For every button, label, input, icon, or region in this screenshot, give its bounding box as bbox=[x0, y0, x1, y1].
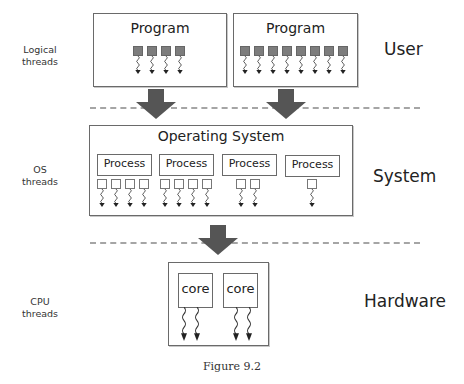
thread-square-icon bbox=[324, 46, 334, 56]
core-box: core bbox=[178, 273, 213, 308]
hardware-box: core core bbox=[168, 262, 269, 346]
system-layer-label: System bbox=[373, 166, 436, 186]
wavy-arrow-icon bbox=[111, 189, 121, 207]
wavy-arrow-icon bbox=[139, 189, 149, 207]
cpu-thread bbox=[179, 307, 189, 343]
logical-threads-label: Logical threads bbox=[5, 44, 75, 68]
logical-thread-row bbox=[133, 46, 189, 74]
wavy-arrow-icon bbox=[192, 307, 202, 341]
os-thread bbox=[202, 179, 212, 207]
wavy-arrow-icon bbox=[236, 189, 246, 207]
wavy-arrow-icon bbox=[174, 189, 184, 207]
os-thread-row bbox=[307, 179, 321, 207]
os-label-line1: OS bbox=[5, 164, 75, 176]
down-arrow-icon bbox=[136, 89, 176, 119]
wavy-arrow-icon bbox=[324, 56, 334, 74]
thread-square-icon bbox=[282, 46, 292, 56]
program-box-2: Program bbox=[233, 13, 358, 87]
logical-thread bbox=[296, 46, 306, 74]
wavy-arrow-icon bbox=[296, 56, 306, 74]
down-arrow-icon bbox=[198, 225, 238, 255]
os-thread bbox=[139, 179, 149, 207]
os-thread bbox=[97, 179, 107, 207]
process-box: Process bbox=[222, 154, 277, 176]
thread-square-icon bbox=[296, 46, 306, 56]
wavy-arrow-icon bbox=[160, 189, 170, 207]
process-box: Process bbox=[97, 154, 152, 176]
user-layer-label: User bbox=[384, 39, 423, 59]
thread-square-icon bbox=[268, 46, 278, 56]
wavy-arrow-icon bbox=[179, 307, 189, 341]
thread-square-icon bbox=[310, 46, 320, 56]
thread-square-icon bbox=[240, 46, 250, 56]
cpu-label-line2: threads bbox=[5, 308, 75, 320]
thread-square-icon bbox=[250, 179, 260, 189]
os-thread bbox=[160, 179, 170, 207]
cpu-thread bbox=[244, 307, 254, 343]
thread-square-icon bbox=[175, 46, 185, 56]
logical-thread bbox=[282, 46, 292, 74]
wavy-arrow-icon bbox=[254, 56, 264, 74]
thread-square-icon bbox=[202, 179, 212, 189]
wavy-arrow-icon bbox=[307, 189, 317, 207]
logical-thread bbox=[254, 46, 264, 74]
os-thread-row bbox=[97, 179, 153, 207]
down-arrow-icon bbox=[266, 89, 306, 119]
cpu-label-line1: CPU bbox=[5, 296, 75, 308]
thread-square-icon bbox=[188, 179, 198, 189]
wavy-arrow-icon bbox=[133, 56, 143, 74]
hardware-layer-label: Hardware bbox=[364, 291, 446, 311]
logical-thread bbox=[240, 46, 250, 74]
program-box-1: Program bbox=[93, 13, 227, 87]
os-threads-label: OS threads bbox=[5, 164, 75, 188]
logical-label-line1: Logical bbox=[5, 44, 75, 56]
os-thread bbox=[236, 179, 246, 207]
cpu-thread bbox=[231, 307, 241, 343]
os-thread bbox=[174, 179, 184, 207]
logical-label-line2: threads bbox=[5, 56, 75, 68]
wavy-arrow-icon bbox=[175, 56, 185, 74]
logical-thread bbox=[175, 46, 185, 74]
wavy-arrow-icon bbox=[97, 189, 107, 207]
process-box: Process bbox=[159, 154, 214, 176]
wavy-arrow-icon bbox=[161, 56, 171, 74]
wavy-arrow-icon bbox=[188, 189, 198, 207]
wavy-arrow-icon bbox=[338, 56, 348, 74]
thread-square-icon bbox=[97, 179, 107, 189]
operating-system-box: Operating System Process Process Process… bbox=[89, 125, 353, 216]
wavy-arrow-icon bbox=[147, 56, 157, 74]
logical-thread bbox=[147, 46, 157, 74]
thread-square-icon bbox=[147, 46, 157, 56]
process-box: Process bbox=[285, 155, 340, 177]
thread-square-icon bbox=[307, 179, 317, 189]
program-title: Program bbox=[94, 20, 226, 36]
wavy-arrow-icon bbox=[202, 189, 212, 207]
logical-thread bbox=[338, 46, 348, 74]
figure-caption: Figure 9.2 bbox=[0, 360, 464, 373]
thread-square-icon bbox=[111, 179, 121, 189]
wavy-arrow-icon bbox=[231, 307, 241, 341]
thread-square-icon bbox=[139, 179, 149, 189]
os-thread bbox=[250, 179, 260, 207]
thread-square-icon bbox=[161, 46, 171, 56]
os-thread bbox=[307, 179, 317, 207]
logical-thread bbox=[133, 46, 143, 74]
logical-thread bbox=[161, 46, 171, 74]
os-label-line2: threads bbox=[5, 176, 75, 188]
os-thread-row bbox=[236, 179, 264, 207]
os-thread bbox=[111, 179, 121, 207]
cpu-threads-label: CPU threads bbox=[5, 296, 75, 320]
thread-square-icon bbox=[125, 179, 135, 189]
cpu-thread-row bbox=[231, 307, 258, 343]
wavy-arrow-icon bbox=[244, 307, 254, 341]
os-thread bbox=[188, 179, 198, 207]
thread-square-icon bbox=[236, 179, 246, 189]
logical-thread bbox=[268, 46, 278, 74]
system-hardware-separator bbox=[90, 242, 420, 244]
thread-square-icon bbox=[160, 179, 170, 189]
wavy-arrow-icon bbox=[282, 56, 292, 74]
logical-thread bbox=[310, 46, 320, 74]
thread-square-icon bbox=[133, 46, 143, 56]
program-title: Program bbox=[234, 20, 357, 36]
thread-square-icon bbox=[254, 46, 264, 56]
